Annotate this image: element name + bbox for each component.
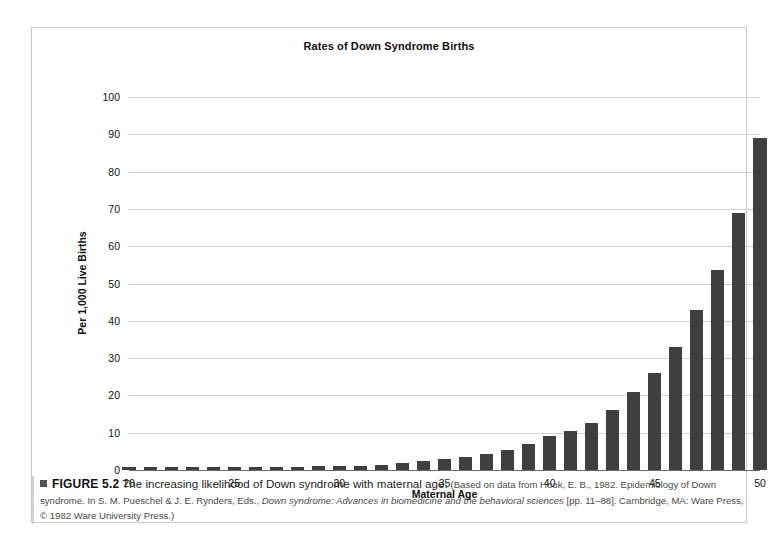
- bar-age-23: [186, 467, 199, 470]
- y-axis-title: Per 1,000 Live Births: [76, 231, 88, 334]
- bar-age-50: [753, 138, 766, 470]
- y-tick-label-30: 30: [108, 352, 120, 364]
- bar-age-22: [165, 467, 178, 470]
- bar-age-33: [396, 463, 409, 470]
- figure-number: FIGURE 5.2: [52, 477, 119, 491]
- y-tick-label-70: 70: [108, 203, 120, 215]
- figure-frame: Rates of Down Syndrome Births Per 1,000 …: [31, 27, 747, 523]
- bar-age-37: [480, 454, 493, 470]
- bar-age-45: [648, 373, 661, 470]
- bar-age-41: [564, 431, 577, 470]
- y-tick-label-60: 60: [108, 240, 120, 252]
- y-tick-label-90: 90: [108, 128, 120, 140]
- bar-age-29: [312, 466, 325, 470]
- bar-age-24: [207, 467, 220, 470]
- bar-age-27: [270, 467, 283, 470]
- bar-age-49: [732, 213, 745, 470]
- chart-title: Rates of Down Syndrome Births: [32, 40, 746, 52]
- bar-age-36: [459, 457, 472, 470]
- bar-age-34: [417, 461, 430, 470]
- y-tick-label-10: 10: [108, 427, 120, 439]
- bar-age-47: [690, 310, 703, 470]
- bar-age-32: [375, 465, 388, 470]
- bar-age-35: [438, 459, 451, 470]
- figure-caption-lead: The increasing likelihood of Down syndro…: [122, 477, 447, 490]
- bar-age-43: [606, 410, 619, 470]
- bar-age-42: [585, 423, 598, 470]
- bar-age-28: [291, 467, 304, 470]
- y-tick-label-20: 20: [108, 389, 120, 401]
- y-tick-label-50: 50: [108, 278, 120, 290]
- bar-age-38: [501, 450, 514, 471]
- bar-age-44: [627, 392, 640, 470]
- bar-age-31: [354, 466, 367, 470]
- figure-source-title: Down syndrome: Advances in biomedicine a…: [262, 495, 564, 506]
- bar-age-26: [249, 467, 262, 470]
- bar-age-20: [122, 467, 135, 470]
- y-tick-label-0: 0: [114, 464, 120, 476]
- y-tick-label-80: 80: [108, 166, 120, 178]
- bar-age-39: [522, 444, 535, 470]
- plot-area: 0102030405060708090100 20253035404550: [129, 97, 760, 470]
- bar-series: [129, 97, 760, 470]
- bar-age-30: [333, 466, 346, 470]
- square-bullet-icon: [40, 480, 47, 487]
- bar-age-21: [144, 467, 157, 470]
- gridline-0: [129, 470, 760, 471]
- bar-age-46: [669, 347, 682, 470]
- bar-age-48: [711, 270, 724, 470]
- y-tick-label-40: 40: [108, 315, 120, 327]
- y-tick-label-100: 100: [102, 91, 120, 103]
- figure-page: Rates of Down Syndrome Births Per 1,000 …: [0, 0, 781, 556]
- bar-age-40: [543, 436, 556, 470]
- figure-caption: FIGURE 5.2 The increasing likelihood of …: [32, 476, 748, 524]
- bar-age-25: [228, 467, 241, 470]
